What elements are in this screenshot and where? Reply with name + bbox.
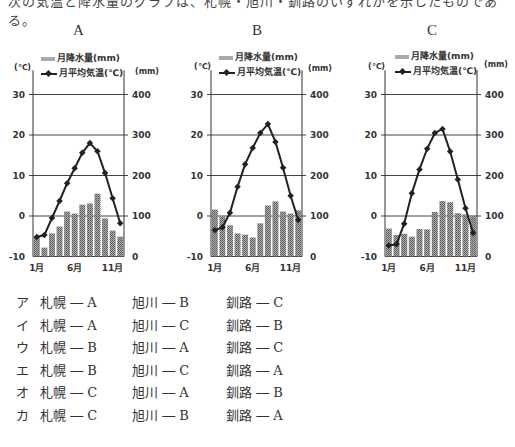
option-asahikawa: 旭川 ― B [132,292,189,311]
svg-text:1月: 1月 [207,263,222,273]
option-i[interactable]: イ 札幌 ― A 旭川 ― C 釧路 ― B [14,315,334,338]
option-label: ア [16,292,29,311]
option-asahikawa: 旭川 ― C [132,315,189,334]
svg-text:20: 20 [190,130,203,140]
svg-text:20: 20 [364,130,377,140]
option-u[interactable]: ウ 札幌 ― B 旭川 ― A 釧路 ― C [14,337,334,360]
svg-text:100: 100 [485,211,504,221]
chart-a: A 月降水量(mm) 月平均気温(℃) (℃) (mm) -1000100102… [0,22,170,280]
svg-text:0: 0 [19,211,25,221]
svg-text:400: 400 [132,90,151,100]
option-asahikawa: 旭川 ― A [132,382,189,401]
svg-text:6月: 6月 [67,263,82,273]
svg-text:-10: -10 [361,252,377,262]
option-sapporo: 札幌 ― A [40,292,97,311]
svg-text:6月: 6月 [420,263,435,273]
svg-text:200: 200 [485,171,504,181]
option-asahikawa: 旭川 ― A [132,337,189,356]
option-label: イ [16,315,29,334]
plot-area: -10001001020020300304001月6月11月 [0,22,170,280]
svg-text:6月: 6月 [245,263,260,273]
svg-text:200: 200 [310,171,329,181]
chart-b: B 月降水量(mm) 月平均気温(℃) (℃) (mm) -1000100102… [178,22,348,280]
svg-text:0: 0 [132,252,138,262]
option-sapporo: 札幌 ― A [40,315,97,334]
svg-text:30: 30 [12,90,25,100]
svg-text:0: 0 [310,252,316,262]
svg-text:1月: 1月 [381,263,396,273]
option-kushiro: 釧路 ― B [226,315,283,334]
answer-options: ア 札幌 ― A 旭川 ― B 釧路 ― C イ 札幌 ― A 旭川 ― C 釧… [14,292,334,427]
option-e[interactable]: エ 札幌 ― B 旭川 ― C 釧路 ― A [14,360,334,383]
option-asahikawa: 旭川 ― B [132,405,189,424]
option-label: カ [16,405,29,424]
svg-text:300: 300 [132,130,151,140]
svg-text:300: 300 [310,130,329,140]
svg-text:11月: 11月 [455,263,477,273]
svg-text:0: 0 [197,211,203,221]
svg-text:100: 100 [310,211,329,221]
svg-text:11月: 11月 [280,263,302,273]
svg-text:400: 400 [310,90,329,100]
chart-c: C 月降水量(mm) 月平均気温(℃) (℃) (mm) -1000100102… [352,22,515,280]
option-asahikawa: 旭川 ― C [132,360,189,379]
svg-text:11月: 11月 [102,263,124,273]
option-o[interactable]: オ 札幌 ― C 旭川 ― A 釧路 ― B [14,382,334,405]
svg-text:0: 0 [371,211,377,221]
svg-text:0: 0 [485,252,491,262]
svg-text:10: 10 [190,171,203,181]
option-kushiro: 釧路 ― A [226,360,283,379]
plot-area: -10001001020020300304001月6月11月 [352,22,515,280]
svg-text:400: 400 [485,90,504,100]
option-kushiro: 釧路 ― A [226,405,283,424]
option-sapporo: 札幌 ― B [40,337,97,356]
svg-text:300: 300 [485,130,504,140]
option-kushiro: 釧路 ― C [226,337,283,356]
svg-text:10: 10 [12,171,25,181]
option-sapporo: 札幌 ― C [40,382,97,401]
option-kushiro: 釧路 ― C [226,292,283,311]
option-kushiro: 釧路 ― B [226,382,283,401]
option-sapporo: 札幌 ― B [40,360,97,379]
option-label: エ [16,360,29,379]
svg-text:20: 20 [12,130,25,140]
svg-text:1月: 1月 [29,263,44,273]
svg-text:100: 100 [132,211,151,221]
svg-text:-10: -10 [9,252,25,262]
option-sapporo: 札幌 ― C [40,405,97,424]
option-label: ウ [16,337,29,356]
svg-text:30: 30 [190,90,203,100]
plot-area: -10001001020020300304001月6月11月 [178,22,348,280]
svg-text:30: 30 [364,90,377,100]
option-a[interactable]: ア 札幌 ― A 旭川 ― B 釧路 ― C [14,292,334,315]
option-label: オ [16,382,29,401]
svg-text:-10: -10 [187,252,203,262]
svg-text:10: 10 [364,171,377,181]
svg-text:200: 200 [132,171,151,181]
option-ka[interactable]: カ 札幌 ― C 旭川 ― B 釧路 ― A [14,405,334,428]
